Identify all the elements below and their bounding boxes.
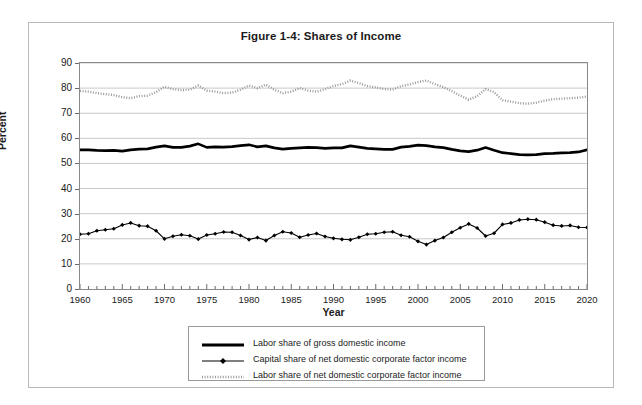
x-axis-tick-label: 1965: [102, 295, 142, 305]
y-axis-tick-label: 10: [38, 259, 72, 269]
series-marker-capital-share: [95, 229, 99, 233]
chart-legend: Labor share of gross domestic incomeCapi…: [188, 326, 485, 381]
series-marker-capital-share: [196, 237, 200, 241]
x-axis-title: Year: [79, 306, 588, 318]
series-marker-capital-share: [289, 231, 293, 235]
y-axis-tick-label: 70: [38, 108, 72, 118]
legend-item: Labor share of gross domestic income: [189, 335, 486, 351]
series-marker-capital-share: [179, 233, 183, 237]
x-axis-tick-label: 1960: [60, 295, 100, 305]
series-marker-capital-share: [458, 226, 462, 230]
x-axis-tick-label: 1970: [145, 295, 185, 305]
series-marker-capital-share: [391, 230, 395, 234]
y-axis-tick-label: 90: [38, 58, 72, 68]
series-marker-capital-share: [129, 221, 133, 225]
series-marker-capital-share: [416, 239, 420, 243]
series-marker-capital-share: [382, 230, 386, 234]
x-axis-tick-label: 1975: [187, 295, 227, 305]
series-marker-capital-share: [146, 224, 150, 228]
series-marker-capital-share: [517, 218, 521, 222]
marker-line-swatch: [199, 353, 247, 365]
series-marker-capital-share: [230, 230, 234, 234]
legend-item-label: Labor share of gross domestic income: [253, 338, 406, 348]
y-axis-tick-label: 60: [38, 133, 72, 143]
series-marker-capital-share: [568, 223, 572, 227]
series-marker-capital-share: [213, 232, 217, 236]
series-line-labor-share-gross: [80, 144, 587, 155]
x-axis-tick-label: 2005: [440, 295, 480, 305]
series-marker-capital-share: [509, 221, 513, 225]
series-marker-capital-share: [585, 225, 587, 229]
y-axis-tick-label: 0: [38, 284, 72, 294]
series-marker-capital-share: [560, 224, 564, 228]
series-marker-capital-share: [315, 231, 319, 235]
series-marker-capital-share: [331, 236, 335, 240]
y-axis-title: Percent: [0, 111, 8, 150]
y-axis-tick-label: 80: [38, 83, 72, 93]
series-marker-capital-share: [306, 233, 310, 237]
series-marker-capital-share: [281, 230, 285, 234]
x-axis-tick-label: 1990: [314, 295, 354, 305]
series-marker-capital-share: [171, 234, 175, 238]
series-marker-capital-share: [543, 220, 547, 224]
series-marker-capital-share: [534, 218, 538, 222]
series-marker-capital-share: [526, 217, 530, 221]
plot-area: [79, 62, 588, 290]
series-marker-capital-share: [103, 228, 107, 232]
series-marker-capital-share: [323, 234, 327, 238]
x-axis-tick-label: 2015: [525, 295, 565, 305]
series-marker-capital-share: [399, 233, 403, 237]
dotted-line-swatch: [199, 369, 247, 381]
series-marker-capital-share: [467, 222, 471, 226]
y-axis-tick-label: 50: [38, 158, 72, 168]
series-marker-capital-share: [374, 232, 378, 236]
series-marker-capital-share: [576, 225, 580, 229]
legend-item-label: Capital share of net domestic corporate …: [253, 354, 467, 364]
series-marker-capital-share: [551, 223, 555, 227]
series-marker-capital-share: [424, 242, 428, 246]
x-axis-tick-label: 2000: [398, 295, 438, 305]
series-marker-capital-share: [407, 235, 411, 239]
thick-line-swatch: [199, 337, 247, 349]
legend-item-label: Labor share of net domestic corporate fa…: [253, 370, 462, 380]
series-marker-capital-share: [205, 233, 209, 237]
legend-item: Labor share of net domestic corporate fa…: [189, 367, 486, 383]
x-axis-tick-label: 2010: [483, 295, 523, 305]
y-axis-tick-label: 30: [38, 209, 72, 219]
series-marker-capital-share: [80, 232, 82, 236]
figure-container: Figure 1-4: Shares of Income Percent 010…: [0, 0, 642, 405]
series-marker-capital-share: [120, 223, 124, 227]
x-axis-tick-label: 1985: [271, 295, 311, 305]
series-marker-capital-share: [340, 237, 344, 241]
chart-title: Figure 1-4: Shares of Income: [0, 30, 642, 42]
series-marker-capital-share: [365, 232, 369, 236]
series-marker-capital-share: [222, 230, 226, 234]
series-marker-capital-share: [247, 237, 251, 241]
series-marker-capital-share: [188, 234, 192, 238]
y-axis-tick-label: 20: [38, 234, 72, 244]
legend-item: Capital share of net domestic corporate …: [189, 351, 486, 367]
series-marker-capital-share: [137, 224, 141, 228]
series-line-labor-share-net-corporate: [80, 81, 587, 104]
y-axis-tick-label: 40: [38, 184, 72, 194]
x-axis-tick-label: 2020: [567, 295, 607, 305]
series-marker-capital-share: [112, 227, 116, 231]
x-axis-tick-label: 1980: [229, 295, 269, 305]
series-marker-capital-share: [238, 233, 242, 237]
series-marker-capital-share: [86, 232, 90, 236]
chart-plot-svg: [80, 63, 587, 289]
x-axis-tick-label: 1995: [356, 295, 396, 305]
